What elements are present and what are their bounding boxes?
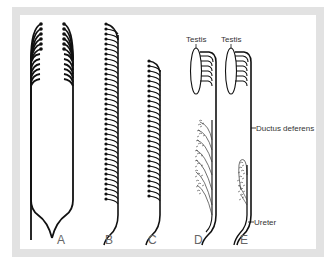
testis-label-e: Testis bbox=[221, 35, 241, 44]
panel-label-c: C bbox=[148, 233, 157, 247]
kidney-duct-evolution-diagram: Testis Testis Ductus deferens Ureter A B… bbox=[0, 0, 333, 273]
diagram-c-dots bbox=[147, 59, 150, 197]
ureter-label: Ureter bbox=[254, 218, 277, 227]
diagram-b-dots bbox=[104, 22, 107, 200]
diagram-a-top bbox=[31, 24, 73, 240]
panel-label-a: A bbox=[57, 233, 65, 247]
diagram-a bbox=[31, 54, 73, 238]
diagram-b-tubules bbox=[106, 29, 118, 204]
diagram-e bbox=[226, 44, 252, 245]
panel-label-d: D bbox=[194, 233, 203, 247]
testis-d-tubules bbox=[200, 56, 213, 86]
diagram-a-dots bbox=[39, 22, 66, 51]
testis-e-tubules bbox=[235, 56, 248, 86]
testis-label-d: Testis bbox=[186, 35, 206, 44]
panel-label-e: E bbox=[240, 233, 248, 247]
panel-label-b: B bbox=[105, 233, 113, 247]
diagram-c-tubules bbox=[149, 66, 160, 201]
testis-d bbox=[191, 48, 202, 94]
testis-e bbox=[226, 48, 237, 94]
diagram-d bbox=[191, 44, 217, 245]
ductus-deferens-label: Ductus deferens bbox=[256, 124, 314, 133]
metanephros-d bbox=[196, 122, 212, 215]
